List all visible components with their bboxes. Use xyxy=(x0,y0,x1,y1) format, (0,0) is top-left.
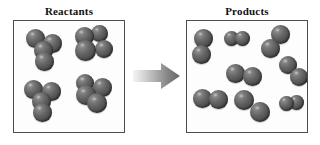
atom-sphere xyxy=(250,102,270,122)
atom-sphere xyxy=(226,64,245,83)
atom-sphere xyxy=(235,31,250,46)
products-label: Products xyxy=(186,5,308,17)
atom-sphere xyxy=(35,52,54,71)
products-molecule-container xyxy=(187,21,307,132)
atom-sphere xyxy=(192,45,211,64)
atom-sphere xyxy=(33,103,52,122)
atom-sphere xyxy=(290,68,308,86)
reaction-arrow xyxy=(133,62,181,90)
reactants-label: Reactants xyxy=(13,5,125,17)
atom-sphere xyxy=(75,40,96,61)
reaction-arrow-icon xyxy=(133,62,181,90)
atom-sphere xyxy=(209,90,228,109)
atom-sphere xyxy=(95,40,113,58)
atom-sphere xyxy=(87,93,107,113)
reaction-diagram: Reactants Products xyxy=(0,0,320,145)
reactants-panel xyxy=(13,20,125,133)
atom-sphere xyxy=(261,39,280,58)
products-panel xyxy=(186,20,308,133)
reactants-molecule-container xyxy=(14,21,124,132)
atom-sphere xyxy=(243,67,262,86)
atom-sphere xyxy=(279,96,294,111)
arrow-shape xyxy=(133,63,180,89)
